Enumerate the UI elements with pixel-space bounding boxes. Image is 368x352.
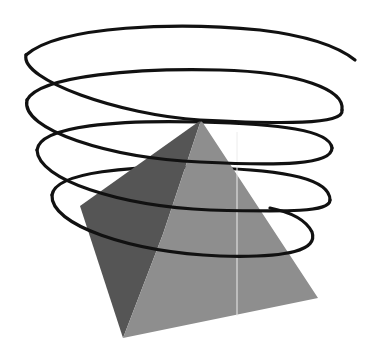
helix-pyramid-illustration [0,0,368,352]
